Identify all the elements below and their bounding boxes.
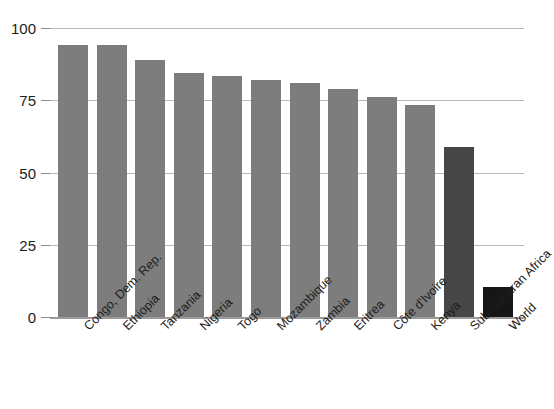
bar xyxy=(444,147,474,318)
bar xyxy=(212,76,242,317)
y-tick-mark-100 xyxy=(41,28,50,29)
y-tick-mark-50 xyxy=(41,173,50,174)
y-axis-tick-label: 50 xyxy=(0,166,36,181)
bar xyxy=(97,45,127,317)
gridline-100 xyxy=(50,28,524,29)
bar xyxy=(174,73,204,317)
bar xyxy=(367,97,397,317)
y-tick-mark-25 xyxy=(41,245,50,246)
y-tick-mark-0 xyxy=(41,317,50,318)
y-axis-tick-label: 25 xyxy=(0,238,36,253)
y-axis-tick-label: 0 xyxy=(0,310,36,325)
bar xyxy=(58,45,88,317)
y-tick-mark-75 xyxy=(41,100,50,101)
y-axis-tick-label: 100 xyxy=(0,21,36,36)
y-axis-tick-label: 75 xyxy=(0,93,36,108)
bar xyxy=(251,80,281,317)
